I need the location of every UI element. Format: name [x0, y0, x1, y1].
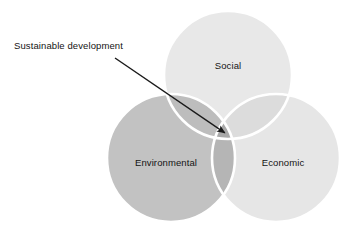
venn-canvas: Social Environmental Economic [0, 0, 349, 240]
circle-label-environmental: Environmental [135, 157, 197, 168]
venn-diagram: Social Environmental Economic Sustainabl… [0, 0, 349, 240]
callout-label-sustainable-development: Sustainable development [14, 40, 123, 52]
circle-label-economic: Economic [262, 157, 305, 168]
circle-label-social: Social [215, 60, 241, 71]
